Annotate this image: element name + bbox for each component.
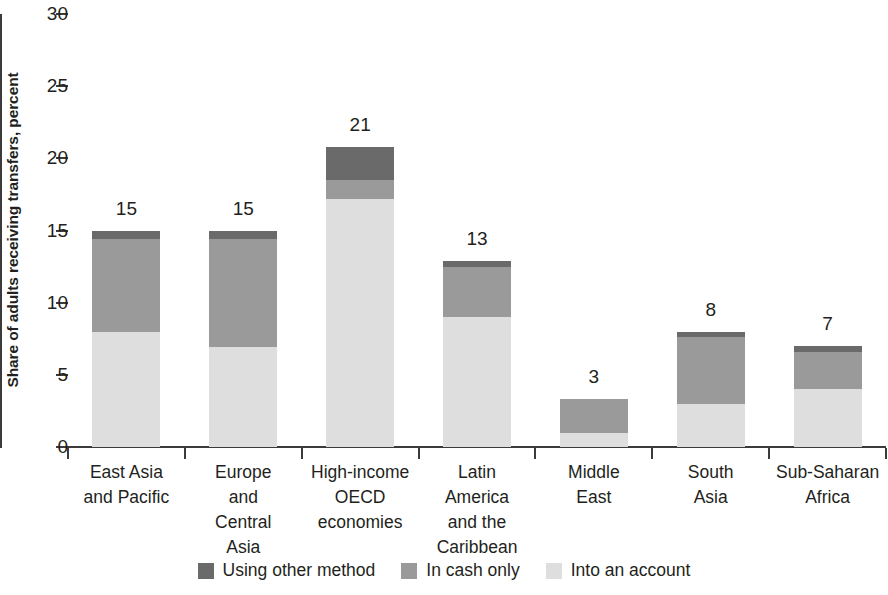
x-axis-tick: [534, 448, 536, 459]
y-axis-title: Share of adults receiving transfers, per…: [0, 0, 26, 460]
x-axis-category-label: High-incomeOECDeconomies: [301, 460, 419, 535]
x-axis-tick: [67, 448, 69, 459]
legend-item: Using other method: [198, 560, 376, 581]
x-axis-category-label-line: Sub-Saharan: [769, 460, 887, 485]
x-axis-tick: [885, 448, 887, 459]
bar-value-label: 8: [677, 299, 745, 321]
x-axis-category-label-line: and Pacific: [67, 485, 185, 510]
x-axis-category-label-line: Middle: [535, 460, 653, 485]
bar-7: [794, 346, 862, 447]
y-axis-tick-label: 20: [26, 147, 68, 169]
x-axis-tick: [184, 448, 186, 459]
bar-value-label: 15: [209, 198, 277, 220]
bar-segment: [794, 352, 862, 390]
bar-2: [209, 231, 277, 447]
legend-swatch-icon: [401, 563, 417, 579]
bar-segment: [92, 239, 160, 331]
y-axis-tick-label: 5: [26, 364, 68, 386]
x-axis-tick: [651, 448, 653, 459]
legend-swatch-icon: [198, 563, 214, 579]
bar-segment: [560, 433, 628, 447]
bar-segment: [443, 267, 511, 318]
x-axis-category-label-line: OECD: [301, 485, 419, 510]
bar-3: [326, 147, 394, 447]
legend-label: Into an account: [571, 560, 691, 581]
bar-segment: [209, 231, 277, 240]
x-axis-category-label-line: economies: [301, 510, 419, 535]
stacked-bar-chart: Share of adults receiving transfers, per…: [0, 0, 888, 595]
x-axis-category-label: Sub-SaharanAfrica: [769, 460, 887, 510]
bar-segment: [326, 199, 394, 447]
bar-6: [677, 332, 745, 447]
y-axis-tick-label: 10: [26, 292, 68, 314]
x-axis-category-label-line: and the: [418, 510, 536, 535]
x-axis-tick: [301, 448, 303, 459]
x-axis-category-label-line: South: [652, 460, 770, 485]
x-axis-category-label-line: Africa: [769, 485, 887, 510]
x-axis-category-label: East Asiaand Pacific: [67, 460, 185, 510]
x-axis-tick: [768, 448, 770, 459]
bar-segment: [326, 180, 394, 199]
legend-item: In cash only: [401, 560, 519, 581]
legend-item: Into an account: [546, 560, 691, 581]
bar-value-label: 13: [443, 228, 511, 250]
bar-segment: [794, 389, 862, 447]
y-axis-tick-label: 30: [26, 3, 68, 25]
bar-value-label: 3: [560, 366, 628, 388]
x-axis-category-label-line: Europe: [184, 460, 302, 485]
x-axis-category-label-line: Asia: [652, 485, 770, 510]
bar-segment: [677, 337, 745, 403]
x-axis-tick: [418, 448, 420, 459]
y-axis-tick-label: 25: [26, 75, 68, 97]
x-axis-category-label-line: America: [418, 485, 536, 510]
bar-segment: [677, 404, 745, 447]
legend-swatch-icon: [546, 563, 562, 579]
bar-segment: [209, 347, 277, 447]
x-axis-category-label-line: East Asia: [67, 460, 185, 485]
x-axis-category-label-line: Latin: [418, 460, 536, 485]
y-axis-line: [0, 14, 2, 448]
x-axis-category-label-line: High-income: [301, 460, 419, 485]
bar-segment: [326, 147, 394, 180]
x-axis-category-label-line: East: [535, 485, 653, 510]
x-axis-category-label: EuropeandCentralAsia: [184, 460, 302, 560]
bar-segment: [443, 317, 511, 447]
bar-1: [92, 231, 160, 447]
bar-segment: [560, 399, 628, 432]
bar-4: [443, 261, 511, 447]
x-axis-category-label-line: Caribbean: [418, 535, 536, 560]
bar-value-label: 21: [326, 114, 394, 136]
legend-label: In cash only: [426, 560, 519, 581]
bar-segment: [209, 239, 277, 347]
x-axis-category-label: MiddleEast: [535, 460, 653, 510]
chart-legend: Using other methodIn cash onlyInto an ac…: [0, 560, 888, 581]
x-axis-category-label: LatinAmericaand theCaribbean: [418, 460, 536, 560]
x-axis-category-label-line: Asia: [184, 535, 302, 560]
legend-label: Using other method: [223, 560, 376, 581]
x-axis-category-label-line: and: [184, 485, 302, 510]
y-axis-tick-label: 0: [26, 436, 68, 458]
bar-value-label: 15: [92, 198, 160, 220]
y-axis-tick-label: 15: [26, 220, 68, 242]
bar-segment: [92, 231, 160, 240]
bar-value-label: 7: [794, 313, 862, 335]
bar-5: [560, 399, 628, 447]
bar-segment: [92, 332, 160, 447]
x-axis-category-label-line: Central: [184, 510, 302, 535]
x-axis-category-label: SouthAsia: [652, 460, 770, 510]
